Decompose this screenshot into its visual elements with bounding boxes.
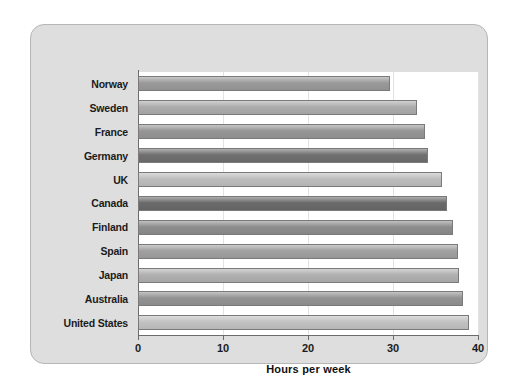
y-axis-label: UK xyxy=(113,174,128,186)
bar-row xyxy=(138,263,479,287)
y-axis-label: Australia xyxy=(85,293,128,305)
y-axis-label: France xyxy=(95,126,128,138)
x-axis-tick-label: 20 xyxy=(302,342,314,354)
y-axis-label-row: Japan xyxy=(31,263,134,287)
bar-row xyxy=(138,287,479,311)
bar xyxy=(138,172,442,187)
x-axis-tick xyxy=(478,335,479,340)
bar xyxy=(138,100,417,115)
x-axis-tick-label: 30 xyxy=(387,342,399,354)
bar-row xyxy=(138,215,479,239)
x-axis-tick-label: 0 xyxy=(135,342,141,354)
y-axis-label: Norway xyxy=(91,78,128,90)
bar xyxy=(138,148,428,163)
y-axis-label-row: Germany xyxy=(31,144,134,168)
bar-row xyxy=(138,191,479,215)
chart-screenshot: NorwaySwedenFranceGermanyUKCanadaFinland… xyxy=(0,0,518,388)
y-axis-label-row: United States xyxy=(31,311,134,335)
bar xyxy=(138,268,459,283)
bar xyxy=(138,315,469,330)
y-axis-label: Japan xyxy=(99,269,128,281)
y-axis-label: Germany xyxy=(84,150,128,162)
y-axis-label-row: Australia xyxy=(31,287,134,311)
x-axis-tick xyxy=(393,335,394,340)
x-axis-tick xyxy=(138,335,139,340)
y-axis-label-row: Finland xyxy=(31,215,134,239)
bar xyxy=(138,291,463,306)
bar xyxy=(138,196,447,211)
y-axis-label-row: Sweden xyxy=(31,96,134,120)
y-axis-label-row: France xyxy=(31,120,134,144)
x-axis-tick xyxy=(223,335,224,340)
y-axis-label: Canada xyxy=(91,197,128,209)
chart-panel: NorwaySwedenFranceGermanyUKCanadaFinland… xyxy=(30,24,488,364)
x-axis-title: Hours per week xyxy=(138,363,479,375)
y-axis-label: Spain xyxy=(100,245,128,257)
x-axis-tick-label: 10 xyxy=(217,342,229,354)
y-axis-label-row: Canada xyxy=(31,191,134,215)
y-axis-category-labels: NorwaySwedenFranceGermanyUKCanadaFinland… xyxy=(31,72,134,335)
bar xyxy=(138,244,458,259)
y-axis-label: Sweden xyxy=(90,102,128,114)
bar xyxy=(138,124,425,139)
bar-row xyxy=(138,239,479,263)
bar-row xyxy=(138,311,479,335)
bar-series xyxy=(138,72,479,335)
y-axis-label-row: UK xyxy=(31,168,134,192)
y-axis-label-row: Norway xyxy=(31,72,134,96)
y-axis-label: United States xyxy=(64,317,129,329)
bar-row xyxy=(138,96,479,120)
x-axis-tick-label: 40 xyxy=(472,342,484,354)
bar-row xyxy=(138,168,479,192)
bar-row xyxy=(138,72,479,96)
y-axis-label: Finland xyxy=(92,221,128,233)
bar-row xyxy=(138,144,479,168)
bar xyxy=(138,76,390,91)
bar-row xyxy=(138,120,479,144)
bar xyxy=(138,220,453,235)
x-axis-tick xyxy=(308,335,309,340)
y-axis-label-row: Spain xyxy=(31,239,134,263)
